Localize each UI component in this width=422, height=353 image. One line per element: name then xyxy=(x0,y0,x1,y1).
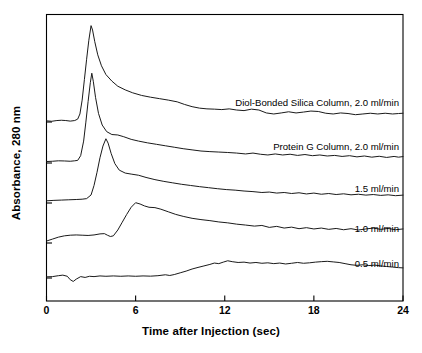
chromatogram-figure: Absorbance, 280 nm Time after Injection … xyxy=(0,0,422,353)
x-tick-label: 24 xyxy=(383,304,422,316)
x-tick-label: 12 xyxy=(205,304,245,316)
x-tick-label: 6 xyxy=(116,304,156,316)
x-tick-label: 0 xyxy=(27,304,67,316)
trace-label-5: 0.5 ml/min xyxy=(0,258,399,269)
trace-label-3: 1.5 ml/min xyxy=(0,183,399,194)
trace-label-2: Protein G Column, 2.0 ml/min xyxy=(0,141,399,152)
x-axis-title: Time after Injection (sec) xyxy=(0,325,422,337)
trace-label-4: 1.0 ml/min xyxy=(0,223,399,234)
trace-lines xyxy=(47,26,404,282)
plot-area xyxy=(0,0,422,353)
x-tick-label: 18 xyxy=(294,304,334,316)
trace-label-1: Diol-Bonded Silica Column, 2.0 ml/min xyxy=(0,97,399,108)
trace-line xyxy=(47,203,404,241)
